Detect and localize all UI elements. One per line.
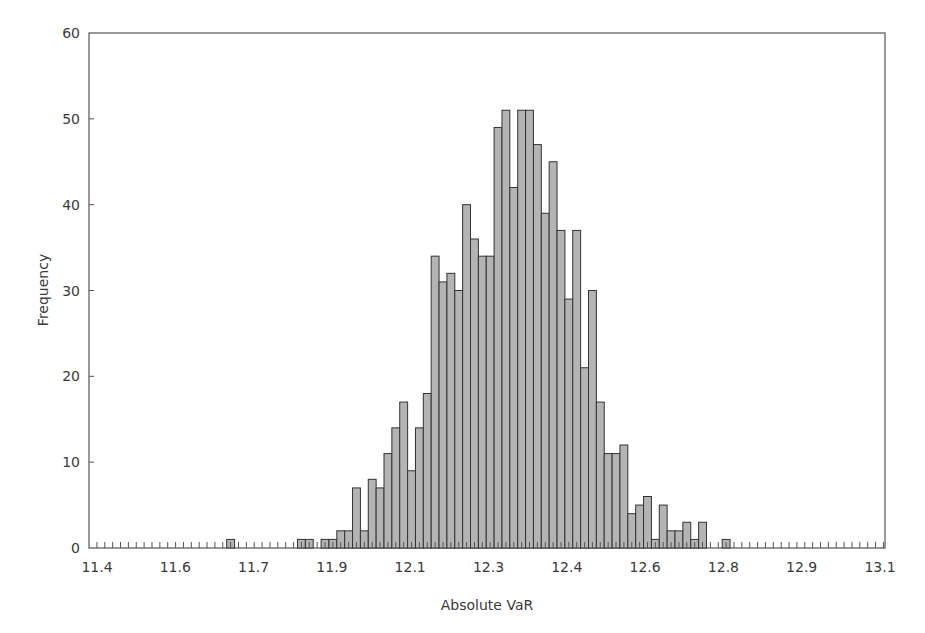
- histogram-chart: 11.411.611.711.912.112.312.412.612.812.9…: [0, 0, 925, 633]
- histogram-bar: [463, 205, 471, 548]
- y-tick-label: 60: [62, 25, 80, 41]
- histogram-bar: [541, 213, 549, 548]
- histogram-bar: [557, 230, 565, 548]
- histogram-bar: [392, 428, 400, 548]
- histogram-bar: [620, 445, 628, 548]
- histogram-bar: [408, 471, 416, 548]
- y-tick-label: 20: [62, 368, 80, 384]
- histogram-bar: [573, 230, 581, 548]
- histogram-bar: [415, 428, 423, 548]
- x-tick-label: 12.3: [473, 559, 504, 575]
- x-axis-title: Absolute VaR: [441, 597, 534, 613]
- histogram-bar: [502, 110, 510, 548]
- histogram-bar: [636, 505, 644, 548]
- y-tick-label: 0: [71, 540, 80, 556]
- y-tick-label: 30: [62, 283, 80, 299]
- histogram-bars: [227, 110, 730, 548]
- histogram-bar: [510, 188, 518, 549]
- x-tick-label: 11.6: [160, 559, 191, 575]
- x-tick-label: 12.8: [708, 559, 739, 575]
- histogram-bar: [526, 110, 534, 548]
- y-tick-label: 10: [62, 454, 80, 470]
- histogram-bar: [565, 299, 573, 548]
- histogram-bar: [471, 239, 479, 548]
- histogram-bar: [439, 282, 447, 548]
- x-tick-label: 12.1: [395, 559, 426, 575]
- histogram-bar: [604, 454, 612, 548]
- histogram-bar: [376, 488, 384, 548]
- histogram-bar: [368, 479, 376, 548]
- x-tick-label: 11.4: [81, 559, 112, 575]
- histogram-bar: [659, 505, 667, 548]
- histogram-bar: [486, 256, 494, 548]
- histogram-bar: [533, 145, 541, 548]
- x-tick-label: 11.7: [238, 559, 269, 575]
- y-axis-title: Frequency: [35, 254, 51, 326]
- histogram-bar: [478, 256, 486, 548]
- histogram-bar: [431, 256, 439, 548]
- histogram-bar: [494, 127, 502, 548]
- histogram-bar: [384, 454, 392, 548]
- histogram-bar: [400, 402, 408, 548]
- x-tick-label: 13.1: [864, 559, 895, 575]
- histogram-bar: [581, 368, 589, 548]
- y-tick-label: 40: [62, 197, 80, 213]
- x-tick-label: 11.9: [316, 559, 347, 575]
- histogram-bar: [596, 402, 604, 548]
- x-tick-label: 12.9: [786, 559, 817, 575]
- y-tick-label: 50: [62, 111, 80, 127]
- histogram-bar: [423, 394, 431, 549]
- histogram-bar: [518, 110, 526, 548]
- histogram-bar: [644, 497, 652, 549]
- x-tick-label: 12.6: [630, 559, 661, 575]
- histogram-bar: [455, 291, 463, 549]
- x-tick-label: 12.4: [551, 559, 582, 575]
- histogram-bar: [589, 291, 597, 549]
- histogram-bar: [549, 162, 557, 548]
- histogram-bar: [612, 454, 620, 548]
- histogram-bar: [353, 488, 361, 548]
- histogram-bar: [447, 273, 455, 548]
